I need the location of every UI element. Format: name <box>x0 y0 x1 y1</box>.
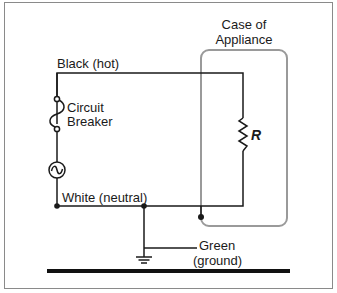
case-label-line2: Appliance <box>215 32 272 47</box>
resistor-symbol <box>239 118 247 151</box>
ground-icon <box>136 257 152 263</box>
figure-frame <box>5 3 333 289</box>
breaker-label-line1: Circuit <box>67 100 104 115</box>
resistor-label: R <box>251 127 262 143</box>
neutral-wire-label: White (neutral) <box>62 190 147 205</box>
ground-label-line2: (ground) <box>193 253 242 268</box>
case-label-line1: Case of <box>222 17 267 32</box>
junction-dot <box>54 203 60 209</box>
case-junction-dot <box>198 214 204 220</box>
ground-label-line1: Green <box>199 238 235 253</box>
breaker-label-line2: Breaker <box>67 114 113 129</box>
ground-wire <box>144 206 197 257</box>
circuit-diagram: Case of Appliance Black (hot) Circuit Br… <box>0 0 337 293</box>
earth-ground-bar <box>47 269 290 273</box>
hot-wire-label: Black (hot) <box>57 56 119 71</box>
